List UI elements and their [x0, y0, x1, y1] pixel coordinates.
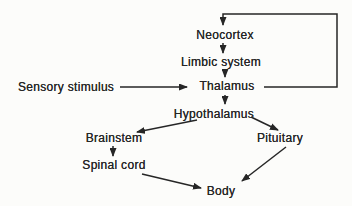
node-thalamus: Thalamus: [199, 80, 254, 92]
node-sensory-stimulus: Sensory stimulus: [18, 81, 114, 93]
edge-thalamus-to-neocortex-feedback-arrow: [223, 14, 337, 87]
node-pituitary: Pituitary: [257, 132, 303, 144]
node-hypothalamus: Hypothalamus: [174, 108, 254, 120]
edge-hypothalamus-to-brainstem-arrow: [137, 120, 197, 132]
arrows-layer: [0, 0, 352, 206]
edge-hypothalamus-to-pituitary-arrow: [251, 117, 278, 130]
edge-pituitary-to-body-arrow: [242, 147, 286, 181]
node-neocortex: Neocortex: [196, 29, 253, 41]
node-brainstem: Brainstem: [86, 132, 143, 144]
node-body: Body: [207, 185, 236, 197]
edge-spinal-cord-to-body-arrow: [142, 174, 201, 188]
node-limbic-system: Limbic system: [181, 56, 261, 68]
node-spinal-cord: Spinal cord: [82, 159, 145, 171]
pathway-diagram: Sensory stimulus Neocortex Limbic system…: [0, 0, 352, 206]
